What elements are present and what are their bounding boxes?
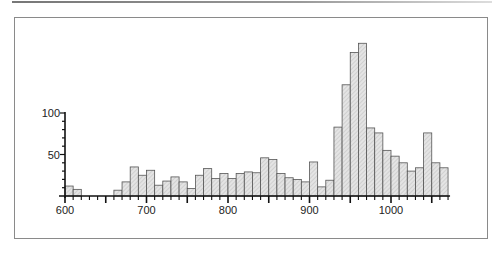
histogram-bar xyxy=(334,127,342,196)
histogram-bar xyxy=(326,180,334,196)
x-tick-label: 600 xyxy=(56,204,74,216)
histogram-bars xyxy=(65,43,448,196)
histogram-bar xyxy=(440,168,448,196)
histogram-bar xyxy=(293,179,301,196)
histogram-bar xyxy=(277,174,285,196)
histogram-bar xyxy=(399,163,407,196)
histogram-bar xyxy=(367,128,375,196)
histogram-bar xyxy=(130,167,138,196)
histogram-bar xyxy=(342,85,350,196)
y-tick-label: 50 xyxy=(48,149,60,161)
histogram-bar xyxy=(212,179,220,196)
x-tick-label: 800 xyxy=(219,204,237,216)
histogram-bar xyxy=(195,175,203,196)
histogram-bar xyxy=(171,177,179,196)
histogram-bar xyxy=(432,163,440,196)
histogram-bar xyxy=(163,181,171,196)
histogram-bar xyxy=(407,171,415,196)
histogram-bar xyxy=(155,185,163,196)
histogram-bar xyxy=(358,43,366,196)
histogram-bar xyxy=(252,173,260,196)
histogram-bar xyxy=(269,159,277,196)
histogram-bar xyxy=(350,52,358,196)
histogram-bar xyxy=(415,168,423,196)
x-tick-label: 1000 xyxy=(379,204,403,216)
histogram-bar xyxy=(138,175,146,196)
x-tick-label: 900 xyxy=(300,204,318,216)
y-tick-label: 100 xyxy=(42,107,60,119)
histogram-bar xyxy=(236,174,244,196)
histogram-bar xyxy=(285,178,293,196)
histogram-bar xyxy=(220,174,228,196)
histogram-bar xyxy=(244,172,252,196)
x-tick-label: 700 xyxy=(137,204,155,216)
histogram-bar xyxy=(383,150,391,196)
histogram-bar xyxy=(391,156,399,196)
histogram-bar xyxy=(310,162,318,196)
histogram-bar xyxy=(261,158,269,196)
histogram-bar xyxy=(318,187,326,196)
histogram-chart: 600700800900100050100 xyxy=(0,0,503,253)
histogram-bar xyxy=(147,170,155,196)
histogram-bar xyxy=(187,189,195,196)
histogram-bar xyxy=(73,189,81,196)
histogram-bar xyxy=(228,179,236,196)
histogram-bar xyxy=(424,133,432,196)
histogram-bar xyxy=(301,182,309,196)
histogram-bar xyxy=(65,186,73,196)
histogram-bar xyxy=(204,169,212,196)
histogram-bar xyxy=(179,182,187,196)
histogram-bar xyxy=(122,182,130,196)
histogram-bar xyxy=(114,190,122,196)
histogram-bar xyxy=(375,133,383,196)
